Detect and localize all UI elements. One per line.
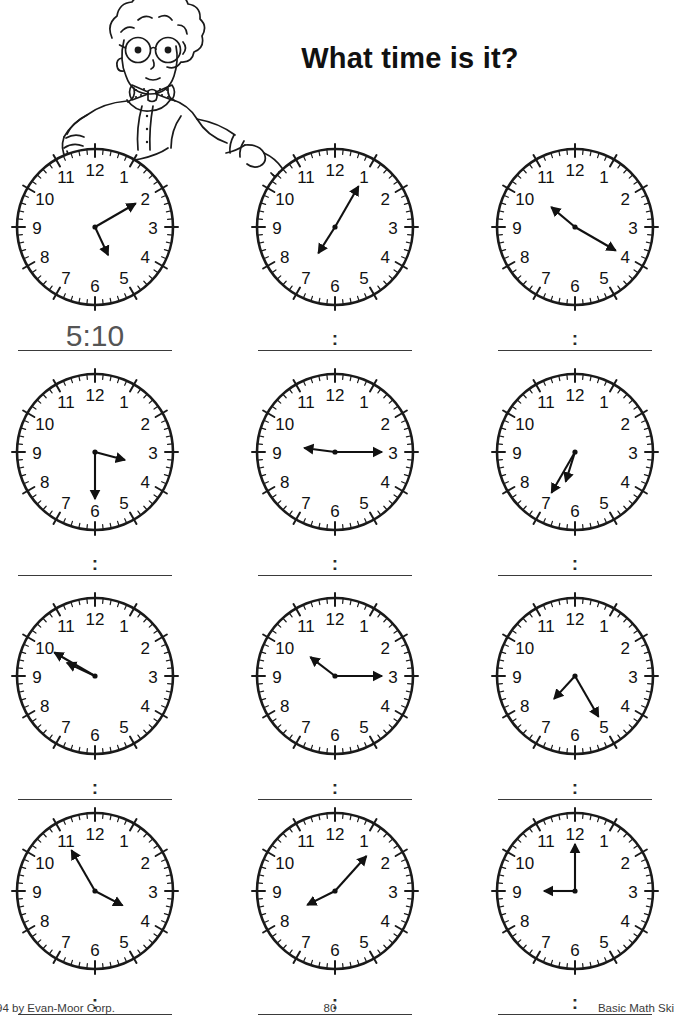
clock-numeral-8: 8 bbox=[520, 697, 529, 716]
clock-numeral-7: 7 bbox=[61, 718, 70, 737]
clock-numeral-7: 7 bbox=[541, 494, 550, 513]
clock-numeral-8: 8 bbox=[520, 473, 529, 492]
clock-center-hub bbox=[332, 449, 337, 454]
clock-numeral-5: 5 bbox=[599, 494, 608, 513]
clock-numeral-6: 6 bbox=[90, 941, 99, 960]
answer-area-9[interactable]: : bbox=[490, 760, 660, 806]
answer-write-line[interactable] bbox=[498, 575, 652, 576]
clock-center-hub bbox=[572, 449, 577, 454]
clock-numeral-1: 1 bbox=[359, 617, 368, 636]
clock-numeral-10: 10 bbox=[35, 854, 54, 873]
clock-numeral-2: 2 bbox=[380, 415, 389, 434]
clock-numeral-5: 5 bbox=[359, 718, 368, 737]
clock-numeral-2: 2 bbox=[140, 415, 149, 434]
clock-numeral-12: 12 bbox=[566, 825, 585, 844]
clock-problem-1: 1212345678910115:10 bbox=[0, 143, 205, 358]
clock-numeral-1: 1 bbox=[119, 393, 128, 412]
answer-write-line[interactable] bbox=[18, 350, 172, 351]
clock-numeral-5: 5 bbox=[119, 269, 128, 288]
answer-area-1[interactable]: 5:10 bbox=[10, 311, 180, 357]
clock-numeral-5: 5 bbox=[599, 718, 608, 737]
answer-write-line[interactable] bbox=[18, 799, 172, 800]
clock-numeral-9: 9 bbox=[272, 444, 281, 463]
clock-numeral-4: 4 bbox=[380, 473, 389, 492]
clock-numeral-2: 2 bbox=[140, 854, 149, 873]
clock-numeral-12: 12 bbox=[86, 610, 105, 629]
clock-numeral-4: 4 bbox=[140, 912, 149, 931]
answer-write-line[interactable] bbox=[498, 350, 652, 351]
clock-numeral-7: 7 bbox=[301, 494, 310, 513]
clock-12: 121234567891011 bbox=[491, 807, 659, 975]
clock-numeral-6: 6 bbox=[570, 726, 579, 745]
clock-numeral-2: 2 bbox=[380, 639, 389, 658]
clock-numeral-10: 10 bbox=[275, 190, 294, 209]
clock-numeral-3: 3 bbox=[388, 883, 397, 902]
clock-numeral-4: 4 bbox=[140, 697, 149, 716]
answer-write-line[interactable] bbox=[258, 799, 412, 800]
clock-numeral-12: 12 bbox=[326, 610, 345, 629]
footer-page-number: 80 bbox=[0, 1002, 660, 1014]
answer-write-line[interactable] bbox=[258, 350, 412, 351]
clock-11: 121234567891011 bbox=[251, 807, 419, 975]
clock-numeral-9: 9 bbox=[512, 219, 521, 238]
clock-numeral-6: 6 bbox=[330, 277, 339, 296]
clock-numeral-9: 9 bbox=[32, 883, 41, 902]
clock-numeral-11: 11 bbox=[297, 168, 315, 187]
clock-center-hub bbox=[332, 224, 337, 229]
clock-numeral-6: 6 bbox=[570, 502, 579, 521]
clock-numeral-8: 8 bbox=[40, 912, 49, 931]
clock-10: 121234567891011 bbox=[11, 807, 179, 975]
clock-numeral-7: 7 bbox=[61, 494, 70, 513]
clock-numeral-2: 2 bbox=[380, 854, 389, 873]
clock-numeral-12: 12 bbox=[326, 825, 345, 844]
answer-area-8[interactable]: : bbox=[250, 760, 420, 806]
clock-numeral-1: 1 bbox=[359, 393, 368, 412]
clock-numeral-1: 1 bbox=[599, 168, 608, 187]
clock-numeral-5: 5 bbox=[119, 494, 128, 513]
answer-write-line[interactable] bbox=[258, 575, 412, 576]
answer-area-2[interactable]: : bbox=[250, 311, 420, 357]
clock-center-hub bbox=[332, 888, 337, 893]
answer-area-6[interactable]: : bbox=[490, 536, 660, 582]
clock-numeral-1: 1 bbox=[119, 832, 128, 851]
clock-numeral-7: 7 bbox=[541, 269, 550, 288]
clock-numeral-10: 10 bbox=[515, 639, 534, 658]
clock-numeral-10: 10 bbox=[35, 190, 54, 209]
clock-numeral-1: 1 bbox=[599, 617, 608, 636]
clock-4: 121234567891011 bbox=[11, 368, 179, 536]
clock-3: 121234567891011 bbox=[491, 143, 659, 311]
answer-area-4[interactable]: : bbox=[10, 536, 180, 582]
answer-write-line[interactable] bbox=[498, 799, 652, 800]
answer-value[interactable]: 5:10 bbox=[66, 321, 124, 351]
clock-numeral-4: 4 bbox=[380, 697, 389, 716]
clock-numeral-6: 6 bbox=[330, 726, 339, 745]
answer-colon: : bbox=[572, 554, 578, 573]
clock-numeral-11: 11 bbox=[57, 832, 75, 851]
clock-numeral-12: 12 bbox=[86, 161, 105, 180]
answer-colon: : bbox=[332, 329, 338, 348]
clock-problem-7: 121234567891011: bbox=[0, 592, 205, 807]
clock-8: 121234567891011 bbox=[251, 592, 419, 760]
clock-numeral-12: 12 bbox=[86, 386, 105, 405]
page-footer: 94 by Evan-Moor Corp. 80 Basic Math Ski bbox=[0, 994, 660, 1016]
clock-numeral-5: 5 bbox=[359, 933, 368, 952]
clock-numeral-11: 11 bbox=[537, 393, 555, 412]
answer-area-3[interactable]: : bbox=[490, 311, 660, 357]
answer-area-7[interactable]: : bbox=[10, 760, 180, 806]
answer-area-5[interactable]: : bbox=[250, 536, 420, 582]
answer-write-line[interactable] bbox=[18, 575, 172, 576]
clock-numeral-4: 4 bbox=[620, 473, 629, 492]
clock-5: 121234567891011 bbox=[251, 368, 419, 536]
clock-numeral-4: 4 bbox=[140, 248, 149, 267]
clock-numeral-1: 1 bbox=[599, 393, 608, 412]
clock-numeral-7: 7 bbox=[301, 269, 310, 288]
clock-numeral-3: 3 bbox=[148, 883, 157, 902]
clock-center-hub bbox=[572, 673, 577, 678]
clock-problem-12: 121234567891011: bbox=[465, 807, 678, 1018]
clock-numeral-9: 9 bbox=[272, 883, 281, 902]
clock-numeral-9: 9 bbox=[272, 668, 281, 687]
clock-numeral-6: 6 bbox=[330, 941, 339, 960]
clock-numeral-4: 4 bbox=[140, 473, 149, 492]
clock-numeral-4: 4 bbox=[620, 248, 629, 267]
